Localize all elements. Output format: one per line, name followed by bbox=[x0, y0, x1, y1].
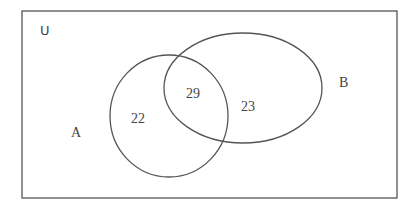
set-a-circle bbox=[110, 55, 228, 177]
set-a-label: A bbox=[71, 125, 82, 140]
set-b-label: B bbox=[339, 75, 348, 90]
set-b-only-count: 23 bbox=[241, 99, 255, 114]
intersection-count: 29 bbox=[186, 86, 200, 101]
venn-diagram: U A B 22 29 23 bbox=[0, 0, 416, 209]
universe-label: U bbox=[40, 23, 50, 38]
universe-rectangle bbox=[22, 11, 397, 198]
set-a-only-count: 22 bbox=[131, 111, 145, 126]
